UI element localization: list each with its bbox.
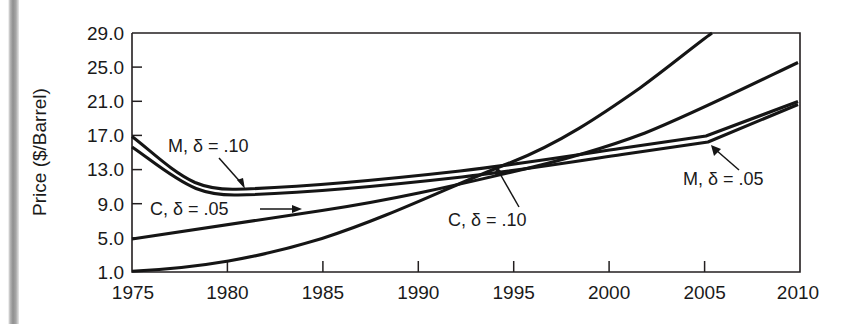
y-tick-label-7: 1.0: [98, 262, 124, 283]
x-tick-label-3: 1990: [397, 282, 439, 303]
price-projection-chart: 29.0 25.0 21.0 17.0 13.0 9.0 5.0 1.0 197…: [0, 0, 865, 324]
annotation-c-delta-005-arrowhead: [292, 205, 302, 213]
annotation-m-delta-005-label: M, δ = .05: [683, 169, 764, 189]
x-tick-label-6: 2005: [683, 282, 725, 303]
x-tick-label-2: 1985: [302, 282, 344, 303]
y-tick-label-2: 21.0: [87, 91, 124, 112]
y-tick-label-3: 17.0: [87, 125, 124, 146]
x-tick-label-5: 2000: [588, 282, 630, 303]
figure-container: 29.0 25.0 21.0 17.0 13.0 9.0 5.0 1.0 197…: [0, 0, 865, 324]
annotation-m-delta-005-arrowhead: [711, 145, 721, 156]
y-axis-tick-labels: 29.0 25.0 21.0 17.0 13.0 9.0 5.0 1.0: [87, 23, 124, 283]
annotation-c-delta-010-leader: [499, 172, 519, 207]
annotation-c-delta-010-label: C, δ = .10: [448, 210, 527, 230]
y-tick-label-0: 29.0: [87, 23, 124, 44]
y-tick-label-1: 25.0: [87, 57, 124, 78]
x-tick-label-4: 1995: [493, 282, 535, 303]
annotation-m-delta-010-arrowhead: [237, 178, 245, 189]
y-tick-label-5: 9.0: [98, 194, 124, 215]
annotation-c-delta-005-label: C, δ = .05: [150, 199, 229, 219]
annotation-m-delta-005-leader: [716, 150, 739, 170]
y-tick-label-4: 13.0: [87, 159, 124, 180]
annotation-c-delta-010: C, δ = .10: [448, 166, 527, 230]
x-axis-ticks: [227, 261, 704, 272]
x-tick-label-1: 1980: [206, 282, 248, 303]
annotation-m-delta-010-label: M, δ = .10: [168, 136, 249, 156]
y-axis-title: Price ($/Barrel): [29, 88, 50, 216]
x-tick-label-0: 1975: [112, 282, 154, 303]
y-tick-label-6: 5.0: [98, 228, 124, 249]
x-tick-label-7: 2010: [777, 282, 819, 303]
annotation-m-delta-005: M, δ = .05: [683, 145, 764, 189]
x-axis-tick-labels: 1975 1980 1985 1990 1995 2000 2005 2010: [112, 282, 819, 303]
